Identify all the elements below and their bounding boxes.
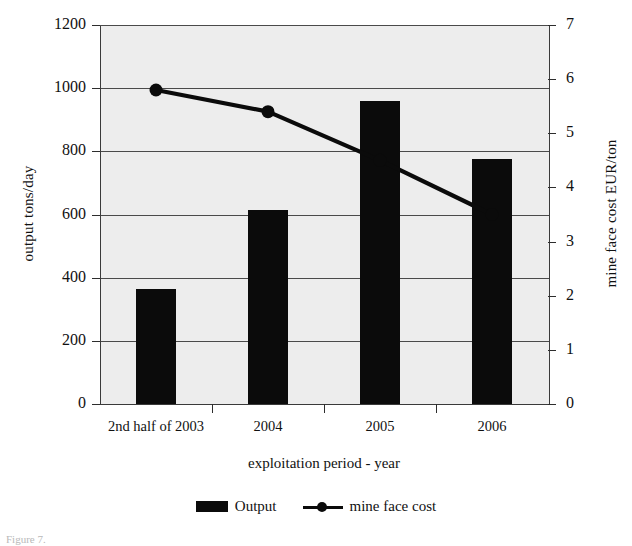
y-axis-right-tick-label: 0 bbox=[566, 395, 596, 411]
y-axis-right-tick bbox=[548, 296, 556, 297]
y-axis-left-tick-label: 800 bbox=[26, 142, 86, 158]
y-axis-left-tick bbox=[92, 404, 100, 405]
y-axis-left-tick bbox=[92, 278, 100, 279]
y-axis-right-tick-label: 5 bbox=[566, 124, 596, 140]
y-axis-left-tick bbox=[92, 341, 100, 342]
cost-line-series bbox=[100, 25, 548, 404]
legend-item-output: Output bbox=[196, 498, 277, 515]
cost-line-marker bbox=[150, 83, 163, 96]
y-axis-right-tick bbox=[548, 25, 556, 26]
y-axis-right-tick bbox=[548, 187, 556, 188]
y-axis-right-tick-label: 3 bbox=[566, 233, 596, 249]
chart-figure: output tons/day mine face cost EUR/ton 0… bbox=[0, 0, 632, 546]
x-axis-category-label: 2006 bbox=[436, 418, 548, 435]
y-axis-right-tick-label: 1 bbox=[566, 341, 596, 357]
x-axis-category-label: 2005 bbox=[324, 418, 436, 435]
y-axis-left-tick-label: 600 bbox=[26, 206, 86, 222]
y-axis-right-tick-label: 2 bbox=[566, 287, 596, 303]
bar-swatch-icon bbox=[196, 501, 228, 512]
y-axis-left-tick-label: 0 bbox=[26, 395, 86, 411]
y-axis-left-tick bbox=[92, 151, 100, 152]
y-axis-left-tick bbox=[92, 25, 100, 26]
chart-legend: Output mine face cost bbox=[0, 498, 632, 515]
y-axis-left-tick-label: 200 bbox=[26, 332, 86, 348]
y-axis-left-tick-label: 1200 bbox=[26, 16, 86, 32]
cost-line-marker bbox=[262, 105, 275, 118]
cost-line-marker bbox=[374, 154, 387, 167]
y-axis-left-tick bbox=[92, 215, 100, 216]
line-marker-swatch-icon bbox=[303, 501, 343, 512]
y-axis-left-tick bbox=[92, 88, 100, 89]
cost-line-markers bbox=[150, 83, 499, 221]
y-axis-right-title: mine face cost EUR/ton bbox=[603, 124, 620, 304]
y-axis-right-tick-label: 4 bbox=[566, 178, 596, 194]
x-axis-tick bbox=[436, 404, 437, 413]
cost-line-marker bbox=[486, 208, 499, 221]
y-axis-left-tick-label: 400 bbox=[26, 269, 86, 285]
legend-label-output: Output bbox=[235, 498, 277, 515]
figure-caption: Figure 7. bbox=[6, 533, 46, 545]
x-axis-tick bbox=[324, 404, 325, 413]
y-axis-right-tick bbox=[548, 404, 556, 405]
x-axis-category-label: 2nd half of 2003 bbox=[100, 418, 212, 435]
y-axis-right-tick bbox=[548, 242, 556, 243]
cost-line-path bbox=[156, 90, 492, 215]
y-axis-right-tick bbox=[548, 350, 556, 351]
y-axis-right-tick-label: 7 bbox=[566, 16, 596, 32]
x-axis-tick bbox=[212, 404, 213, 413]
x-axis-category-label: 2004 bbox=[212, 418, 324, 435]
y-axis-left-tick-label: 1000 bbox=[26, 79, 86, 95]
y-axis-right-tick-label: 6 bbox=[566, 70, 596, 86]
y-axis-right-tick bbox=[548, 133, 556, 134]
y-axis-right-tick bbox=[548, 79, 556, 80]
x-axis-title: exploitation period - year bbox=[100, 455, 548, 472]
legend-item-mine-face-cost: mine face cost bbox=[303, 498, 437, 515]
legend-label-mine-face-cost: mine face cost bbox=[350, 498, 437, 515]
